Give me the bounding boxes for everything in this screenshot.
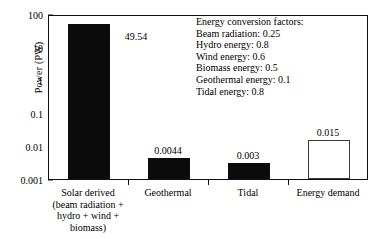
bar-value-label: 0.003 (237, 150, 260, 161)
annotation-line: Beam radiation: 0.25 (196, 28, 304, 40)
annotation-line: Energy conversion factors: (196, 16, 304, 28)
bar-value-label: 0.0044 (154, 145, 182, 156)
y-tick-label: 0.001 (21, 175, 49, 186)
annotation-line: Tidal energy: 0.8 (196, 86, 304, 98)
x-category-line: Tidal (238, 187, 259, 199)
x-category-label: Energy demand (297, 187, 360, 199)
annotation-line: Geothermal energy: 0.1 (196, 74, 304, 86)
bar-1 (68, 24, 110, 179)
y-tick-label: 1 (38, 76, 48, 87)
x-category-line: Solar derived (52, 187, 123, 199)
power-comparison-bar-chart: Power (PW) 100 10 1 0.1 0.01 0.001 Solar… (0, 0, 375, 239)
bar-2 (148, 158, 190, 179)
bar-4 (308, 140, 350, 179)
x-category-line: Energy demand (297, 187, 360, 199)
x-category-line: biomass) (52, 222, 123, 234)
y-tick-label: 100 (28, 10, 48, 21)
x-category-label: Solar derived(beam radiation +hydro + wi… (52, 187, 123, 233)
bar-value-label: 0.015 (317, 127, 340, 138)
bar-3 (228, 163, 270, 179)
x-category-line: (beam radiation + (52, 199, 123, 211)
annotation-line: Biomass energy: 0.5 (196, 62, 304, 74)
x-tickmark (288, 180, 289, 185)
x-tickmark (208, 180, 209, 185)
x-category-line: Geothermal (144, 187, 191, 199)
x-category-label: Geothermal (144, 187, 191, 199)
x-category-line: hydro + wind + (52, 210, 123, 222)
bar-value-label: 49.54 (125, 31, 148, 42)
y-tick-label: 0.1 (31, 109, 49, 120)
conversion-factors-annotation: Energy conversion factors: Beam radiatio… (196, 16, 304, 97)
x-tickmark (128, 180, 129, 185)
y-tick-label: 0.01 (26, 142, 49, 153)
y-tick-label: 10 (33, 43, 48, 54)
y-axis-ticks: 100 10 1 0.1 0.01 0.001 (0, 0, 48, 195)
annotation-line: Wind energy: 0.6 (196, 51, 304, 63)
annotation-line: Hydro energy: 0.8 (196, 39, 304, 51)
x-category-label: Tidal (238, 187, 259, 199)
